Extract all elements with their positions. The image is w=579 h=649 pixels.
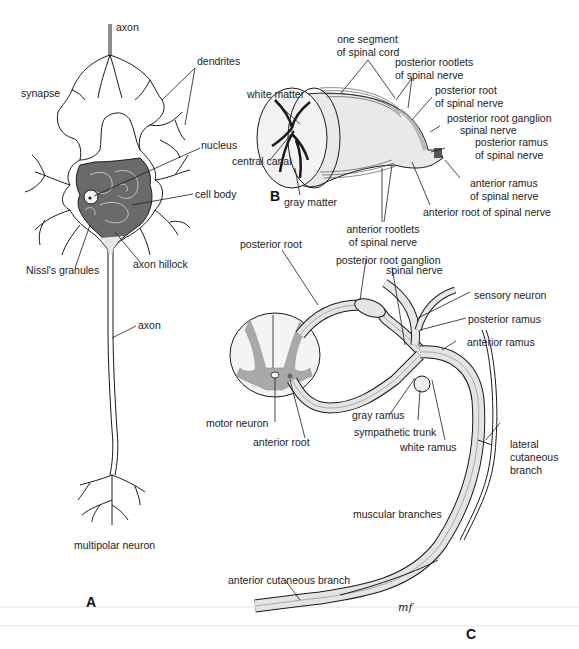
artist-signature: mf xyxy=(398,601,414,614)
label-posterior-rootlets: posterior rootlets xyxy=(395,56,473,68)
label-gray-ramus: gray ramus xyxy=(352,409,405,421)
label-sensory-neuron: sensory neuron xyxy=(474,289,546,301)
label-axon-mid: axon xyxy=(138,319,161,331)
label-white-ramus: white ramus xyxy=(400,441,457,453)
label-one-segment: one segment xyxy=(335,33,400,45)
label-posterior-root: posterior root xyxy=(435,84,497,96)
panel-label-b: B xyxy=(270,188,280,204)
label-central-canal: central canal xyxy=(232,155,292,167)
spinal-cord-segment-drawing xyxy=(257,88,443,188)
label-gray-matter: gray matter xyxy=(284,196,337,208)
caption-multipolar-neuron: multipolar neuron xyxy=(74,539,155,551)
leader-lines-panel-c xyxy=(275,250,500,600)
label-nucleus: nucleus xyxy=(201,139,237,151)
label-anterior-rootlets-2: of spinal nerve xyxy=(342,236,424,248)
label-c-posterior-root: posterior root xyxy=(240,238,302,250)
label-axon-top: axon xyxy=(116,21,139,33)
label-cell-body: cell body xyxy=(195,188,236,200)
label-synapse: synapse xyxy=(21,87,60,99)
label-sympathetic-trunk: sympathetic trunk xyxy=(354,426,436,438)
label-cutaneous: cutaneous xyxy=(510,451,558,463)
label-posterior-rootlets-2: of spinal nerve xyxy=(395,69,463,81)
label-c-posterior-ramus: posterior ramus xyxy=(468,313,541,325)
label-dendrites: dendrites xyxy=(197,55,240,67)
label-muscular-branches: muscular branches xyxy=(353,508,442,520)
panel-label-a: A xyxy=(86,594,96,610)
label-axon-hillock: axon hillock xyxy=(133,258,188,270)
label-branch: branch xyxy=(510,464,542,476)
label-posterior-ramus: posterior ramus xyxy=(475,136,548,148)
label-c-anterior-ramus: anterior ramus xyxy=(467,336,535,348)
label-of-spinal-cord: of spinal cord xyxy=(332,46,404,58)
label-anterior-root-c: anterior root xyxy=(253,436,310,448)
label-white-matter: white matter xyxy=(247,88,304,100)
label-anterior-root: anterior root of spinal nerve xyxy=(423,206,551,218)
panel-label-c: C xyxy=(466,626,476,642)
label-anterior-ramus: anterior ramus xyxy=(470,177,538,189)
label-anterior-ramus-2: of spinal nerve xyxy=(470,190,538,202)
label-c-spinal-nerve: spinal nerve xyxy=(386,264,443,276)
label-posterior-root-2: of spinal nerve xyxy=(435,97,503,109)
label-nissls-granules: Nissl's granules xyxy=(26,264,99,276)
label-spinal-nerve: spinal nerve xyxy=(460,124,517,136)
label-posterior-root-ganglion: posterior root ganglion xyxy=(447,112,551,124)
label-lateral: lateral xyxy=(510,438,539,450)
label-anterior-rootlets: anterior rootlets xyxy=(342,223,424,235)
label-anterior-cutaneous-branch: anterior cutaneous branch xyxy=(228,574,350,586)
label-posterior-ramus-2: of spinal nerve xyxy=(475,149,543,161)
label-motor-neuron: motor neuron xyxy=(206,417,268,429)
